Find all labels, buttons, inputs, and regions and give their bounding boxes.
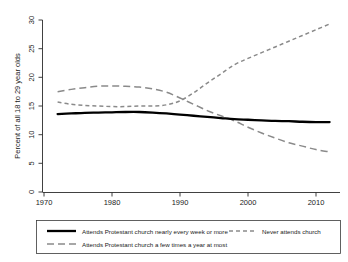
- y-axis-title: Percent of all 18 to 29 year olds: [13, 53, 22, 159]
- legend-label-nearly-every-week: Attends Protestant church nearly every w…: [82, 228, 228, 235]
- x-tick-label-2010: 2010: [308, 198, 325, 207]
- legend-label-never-attends: Never attends church: [262, 228, 321, 235]
- y-tick-label-5: 5: [27, 161, 36, 165]
- chart-background: [0, 0, 348, 262]
- y-tick-label-30: 30: [27, 16, 36, 24]
- x-tick-label-1980: 1980: [104, 198, 121, 207]
- y-tick-label-0: 0: [27, 190, 36, 194]
- x-tick-label-1990: 1990: [172, 198, 189, 207]
- y-tick-label-15: 15: [27, 102, 36, 110]
- x-tick-label-2000: 2000: [240, 198, 257, 207]
- x-tick-label-1970: 1970: [36, 198, 53, 207]
- y-tick-label-25: 25: [27, 45, 36, 53]
- y-tick-label-10: 10: [27, 131, 36, 139]
- legend-label-few-times-a-year: Attends Protestant church a few times a …: [82, 241, 227, 248]
- y-tick-label-20: 20: [27, 73, 36, 81]
- chart-figure: 0 5 10 15 20 25 30 Percent of all 18 to …: [0, 0, 348, 262]
